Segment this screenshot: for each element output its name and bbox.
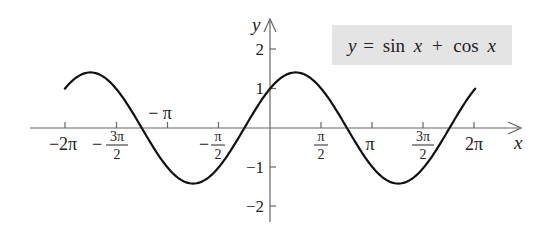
x-tick-3pi2-den: 2 [420,147,427,162]
y-tick-2: 2 [256,40,265,59]
x-tick-pi2-den: 2 [318,147,325,162]
x-tick-minus-3pi2-num: 3π [110,129,124,144]
x-tick-minus-3pi2-den: 2 [114,147,121,162]
x-tick-minus-pi2-num: π [214,129,221,144]
y-axis-label: y [250,14,261,35]
x-tick-pi2-num: π [317,129,324,144]
y-tick-minus-2: −2 [246,197,264,216]
chart: y = sin x + cos x x y 2 1 −1 −2 −2π − 3π… [0,0,551,233]
x-tick-minus-pi2-sign: − [199,134,209,154]
x-tick-3pi2-num: 3π [416,129,430,144]
y-tick-minus-1: −1 [246,158,264,177]
x-axis-label: x [513,132,523,153]
x-tick-2pi: 2π [465,134,483,154]
x-tick-minus-3pi2-sign: − [92,134,102,154]
y-tick-1: 1 [256,79,265,98]
x-tick-pi: π [365,134,374,154]
x-tick-minus-2pi: −2π [49,134,77,154]
chart-title: y = sin x + cos x [346,35,496,56]
x-tick-minus-pi: − π [148,103,172,123]
x-tick-minus-pi2-den: 2 [215,147,222,162]
